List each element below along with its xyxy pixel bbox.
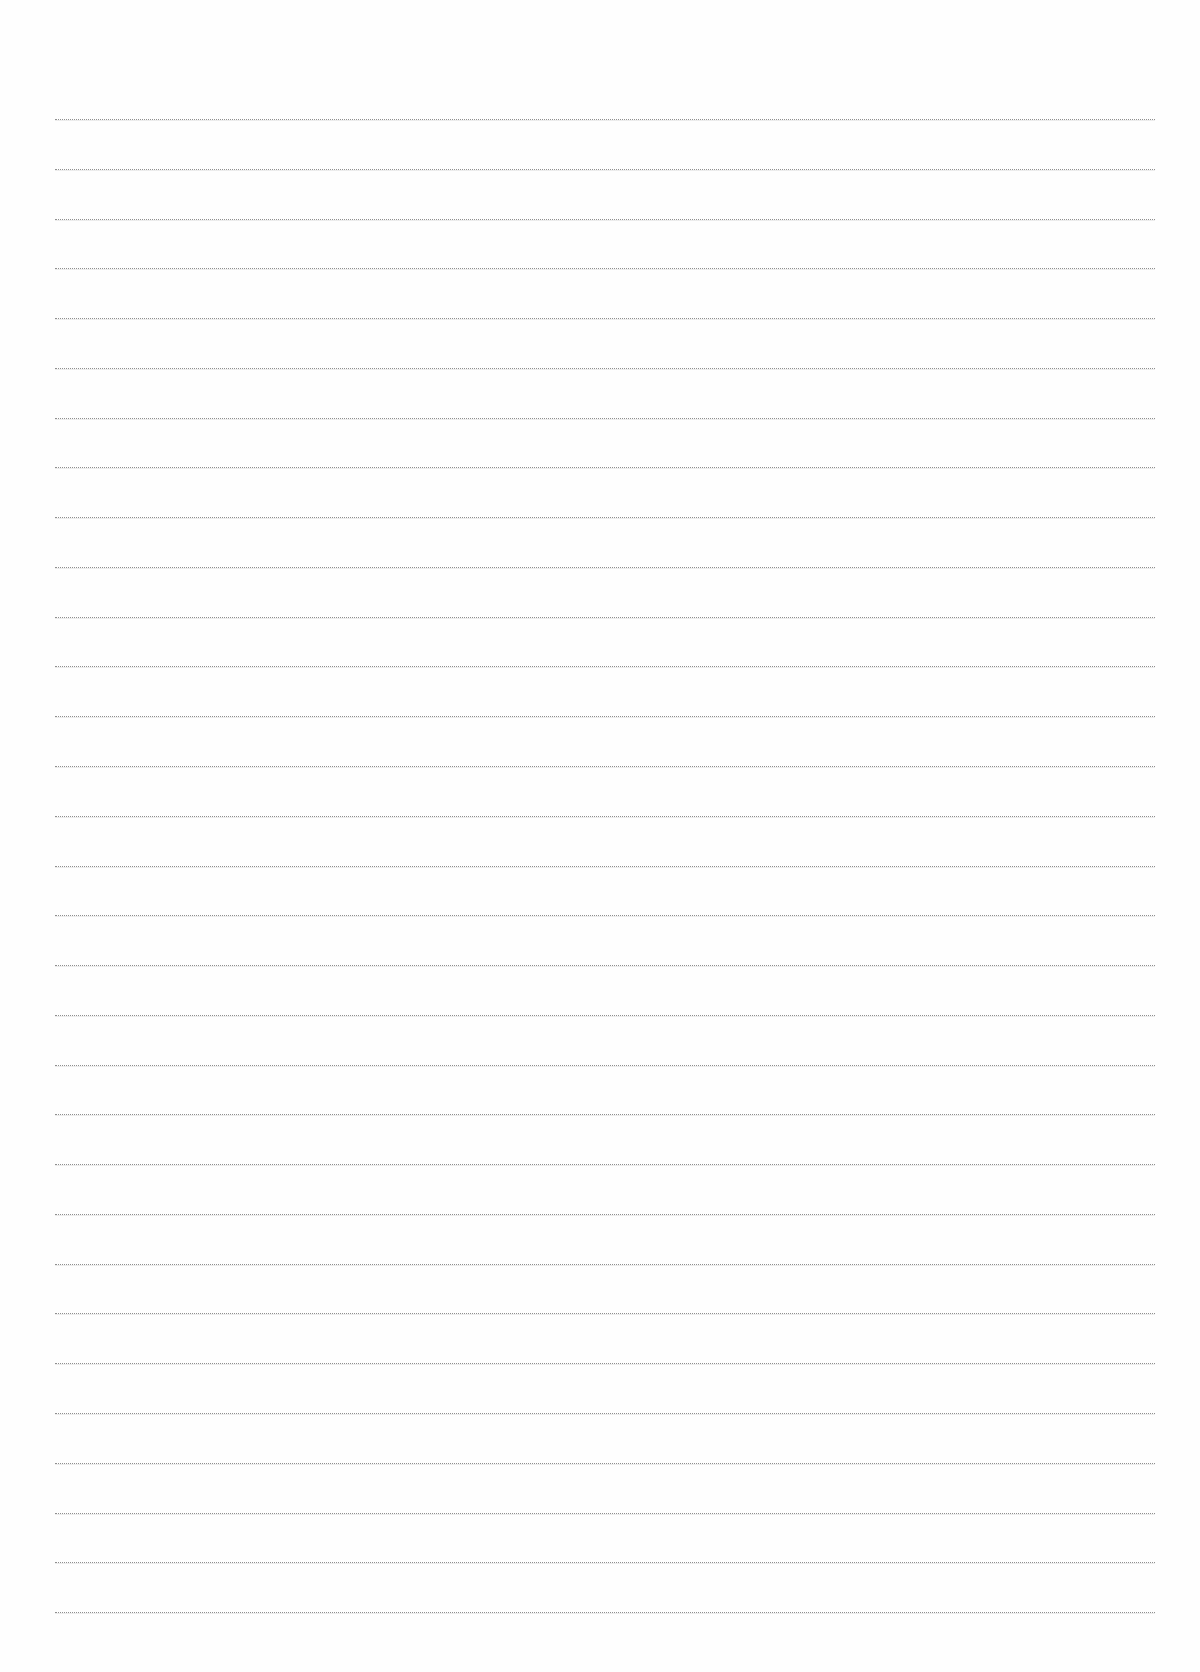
ruled-line (55, 1164, 1155, 1165)
lined-paper-page (0, 0, 1200, 1672)
ruled-line (55, 169, 1155, 170)
ruled-line (55, 318, 1155, 319)
ruled-line (55, 965, 1155, 966)
ruled-line (55, 467, 1155, 468)
ruled-line (55, 1513, 1155, 1514)
ruled-line (55, 268, 1155, 269)
ruled-line (55, 666, 1155, 667)
ruled-line (55, 1065, 1155, 1066)
ruled-line (55, 1015, 1155, 1016)
ruled-line (55, 567, 1155, 568)
ruled-line (55, 915, 1155, 916)
ruled-line (55, 1264, 1155, 1265)
ruled-line (55, 1363, 1155, 1364)
ruled-line (55, 766, 1155, 767)
ruled-line (55, 219, 1155, 220)
ruled-line (55, 1413, 1155, 1414)
ruled-line (55, 368, 1155, 369)
ruled-line (55, 418, 1155, 419)
ruled-line (55, 816, 1155, 817)
ruled-line (55, 866, 1155, 867)
ruled-line (55, 1313, 1155, 1314)
ruled-line (55, 617, 1155, 618)
ruled-line (55, 716, 1155, 717)
ruled-line (55, 1612, 1155, 1613)
ruled-line (55, 1562, 1155, 1563)
ruled-line (55, 1463, 1155, 1464)
ruled-line (55, 119, 1155, 120)
ruled-line (55, 517, 1155, 518)
ruled-line (55, 1114, 1155, 1115)
ruled-line (55, 1214, 1155, 1215)
